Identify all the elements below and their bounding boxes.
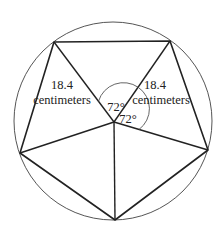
- pentagon-diagram: 18.4 centimeters 18.4 centimeters 72° 72…: [0, 0, 220, 240]
- right-radius-value: 18.4: [144, 78, 167, 92]
- radius-left: [20, 122, 114, 153]
- radius-right: [114, 122, 208, 150]
- angle-lower-label: 72°: [119, 112, 137, 126]
- left-radius-value: 18.4: [51, 78, 74, 92]
- right-radius-unit: centimeters: [132, 93, 190, 107]
- radius-bottom: [114, 122, 115, 220]
- left-radius-unit: centimeters: [33, 93, 91, 107]
